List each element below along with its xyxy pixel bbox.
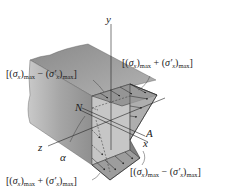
point-a-label: A <box>146 128 153 139</box>
y-axis-label: y <box>106 14 111 25</box>
z-axis-label: z <box>38 142 42 153</box>
x-axis-label: x <box>143 138 148 149</box>
alpha-label: α <box>60 152 66 163</box>
stress-label-bottom-left: [(σx)max + (σ′x)max] <box>6 176 77 188</box>
neutral-axis-label: N <box>75 102 82 113</box>
stress-label-bottom-right: [(σx)max − (σ′x)max] <box>130 167 201 179</box>
stress-label-top-right: [(σx)max + (σ′x)max] <box>122 58 193 70</box>
stress-label-top-left: [(σx)max − (σ′x)max] <box>6 69 77 81</box>
